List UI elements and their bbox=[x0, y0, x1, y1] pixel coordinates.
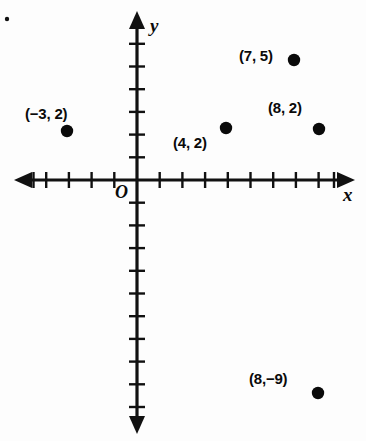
point-label-8-neg9: (8,−9) bbox=[249, 371, 287, 386]
x-axis-label: x bbox=[343, 185, 353, 204]
datapoint-7-5[interactable] bbox=[288, 54, 300, 66]
datapoint-neg3-2[interactable] bbox=[61, 125, 73, 137]
figure-canvas: y x O (7, 5) (−3, 2) (8, 2) (4, 2) (8,−9… bbox=[0, 0, 366, 441]
datapoint-8-neg9[interactable] bbox=[312, 387, 324, 399]
point-label-7-5: (7, 5) bbox=[239, 48, 273, 63]
point-label-4-2: (4, 2) bbox=[173, 135, 207, 150]
point-label-neg3-2: (−3, 2) bbox=[25, 106, 67, 121]
x-axis-group bbox=[14, 172, 355, 188]
scan-speck-artifact bbox=[5, 17, 9, 21]
datapoint-4-2[interactable] bbox=[220, 122, 232, 134]
origin-label: O bbox=[115, 183, 128, 201]
y-axis-label: y bbox=[150, 16, 158, 35]
y-axis-arrow-up-icon bbox=[129, 11, 145, 29]
x-axis-arrow-left-icon bbox=[14, 172, 32, 188]
coordinate-plane-svg bbox=[0, 0, 366, 441]
datapoint-8-2[interactable] bbox=[313, 123, 325, 135]
y-axis-arrow-down-icon bbox=[129, 416, 145, 434]
y-axis-group bbox=[129, 11, 145, 434]
point-label-8-2: (8, 2) bbox=[268, 100, 302, 115]
